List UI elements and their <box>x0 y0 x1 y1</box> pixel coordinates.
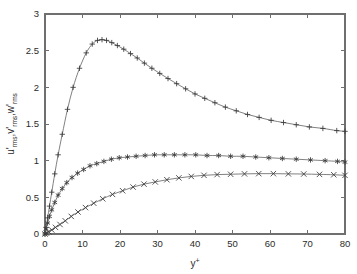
x-tick-label: 40 <box>190 238 201 249</box>
x-axis-title: y+ <box>190 257 199 269</box>
x-tick-label: 70 <box>302 238 313 249</box>
marker-plus-1 <box>142 60 147 65</box>
marker-plus-1 <box>52 171 57 176</box>
marker-plus-1 <box>334 128 339 133</box>
marker-star-2 <box>49 207 54 212</box>
marker-plus-1 <box>192 91 197 96</box>
marker-star-2 <box>101 159 106 164</box>
marker-cross-3 <box>63 218 68 223</box>
marker-plus-1 <box>202 96 207 101</box>
marker-plus-1 <box>245 112 250 117</box>
y-tick-label: 2 <box>34 82 39 93</box>
marker-cross-3 <box>75 209 80 214</box>
marker-plus-1 <box>135 55 140 60</box>
marker-plus-1 <box>70 85 75 90</box>
marker-plus-1 <box>294 122 299 127</box>
marker-plus-1 <box>320 126 325 131</box>
marker-plus-1 <box>165 76 170 81</box>
marker-star-2 <box>88 163 93 168</box>
marker-plus-1 <box>149 66 154 71</box>
marker-plus-1 <box>121 47 126 52</box>
marker-plus-1 <box>95 38 100 43</box>
marker-plus-1 <box>109 40 114 45</box>
marker-plus-1 <box>99 37 104 42</box>
marker-plus-1 <box>174 81 179 86</box>
marker-plus-1 <box>128 51 133 56</box>
curve-3 <box>45 174 345 234</box>
x-tick-label: 50 <box>227 238 238 249</box>
marker-plus-1 <box>55 152 60 157</box>
marker-cross-3 <box>53 225 58 230</box>
y-tick-label: 0 <box>34 228 39 239</box>
marker-plus-1 <box>234 108 239 113</box>
marker-plus-1 <box>183 86 188 91</box>
marker-cross-3 <box>100 196 105 201</box>
marker-cross-3 <box>120 188 125 193</box>
marker-plus-1 <box>212 100 217 105</box>
y-tick-label: 1 <box>34 155 39 166</box>
marker-plus-1 <box>115 43 120 48</box>
x-tick-label: 0 <box>42 238 47 249</box>
y-tick-label: 3 <box>34 8 39 19</box>
marker-cross-3 <box>91 201 96 206</box>
x-tick-label: 60 <box>265 238 276 249</box>
marker-plus-1 <box>157 71 162 76</box>
marker-plus-1 <box>281 120 286 125</box>
marker-star-2 <box>75 170 80 175</box>
x-tick-label: 20 <box>115 238 126 249</box>
marker-plus-1 <box>49 190 54 195</box>
marker-plus-1 <box>307 124 312 129</box>
marker-cross-3 <box>69 214 74 219</box>
marker-star-2 <box>52 200 57 205</box>
x-tick-label: 10 <box>77 238 88 249</box>
marker-cross-3 <box>83 205 88 210</box>
y-tick-label: 2.5 <box>26 45 39 56</box>
marker-plus-1 <box>104 38 109 43</box>
chart-canvas: 0102030405060708000.511.522.53y+u'rms,v'… <box>0 0 357 274</box>
marker-plus-1 <box>84 50 89 55</box>
marker-cross-3 <box>130 184 135 189</box>
y-tick-label: 0.5 <box>26 192 39 203</box>
y-axis-title: u'rms,v'rms,w'rms <box>5 92 18 154</box>
marker-star-2 <box>94 161 99 166</box>
x-tick-label: 80 <box>340 238 351 249</box>
marker-plus-1 <box>256 115 261 120</box>
marker-plus-1 <box>268 118 273 123</box>
marker-plus-1 <box>77 66 82 71</box>
marker-plus-1 <box>223 104 228 109</box>
marker-plus-1 <box>342 129 347 134</box>
marker-star-2 <box>56 192 61 197</box>
marker-cross-3 <box>110 192 115 197</box>
marker-star-2 <box>81 167 86 172</box>
marker-cross-3 <box>57 222 62 227</box>
chart-figure: 0102030405060708000.511.522.53y+u'rms,v'… <box>0 0 357 274</box>
y-tick-label: 1.5 <box>26 118 39 129</box>
marker-plus-1 <box>60 132 65 137</box>
marker-plus-1 <box>65 107 70 112</box>
marker-cross-3 <box>49 227 54 232</box>
x-tick-label: 30 <box>152 238 163 249</box>
